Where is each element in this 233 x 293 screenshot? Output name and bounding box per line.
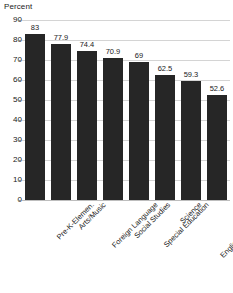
bar-value-label: 69 <box>125 52 153 60</box>
bar <box>25 34 45 200</box>
y-axis-tick-mark <box>18 20 21 21</box>
bar <box>77 51 97 200</box>
y-axis-tick-mark <box>18 60 21 61</box>
bar-value-label: 52.6 <box>203 85 231 93</box>
x-axis-category-labels: Pre-K-Elemen.Arts/MusicForeign LanguageS… <box>22 201 233 293</box>
x-axis-category-label: English/Language Arts <box>219 201 233 260</box>
bar <box>181 81 201 200</box>
y-axis-tick-mark <box>18 80 21 81</box>
bar-value-label: 74.4 <box>73 41 101 49</box>
bar-value-label: 83 <box>21 24 49 32</box>
bar <box>51 44 71 200</box>
plot-area: 8377.974.470.96962.559.352.6 <box>22 20 230 200</box>
y-axis: 0102030405060708090 <box>0 20 22 200</box>
y-axis-tick-mark <box>18 140 21 141</box>
gridline <box>22 20 230 21</box>
bar <box>103 58 123 200</box>
y-axis-tick-mark <box>18 100 21 101</box>
bar <box>207 95 227 200</box>
y-axis-tick-mark <box>18 120 21 121</box>
bar <box>129 62 149 200</box>
bar-value-label: 62.5 <box>151 65 179 73</box>
bar-value-label: 59.3 <box>177 71 205 79</box>
y-axis-tick-mark <box>18 160 21 161</box>
bar-chart: Percent 0102030405060708090 8377.974.470… <box>0 0 233 293</box>
y-axis-title: Percent <box>4 2 32 12</box>
bar <box>155 75 175 200</box>
y-axis-tick-mark <box>18 40 21 41</box>
bar-value-label: 70.9 <box>99 48 127 56</box>
bar-value-label: 77.9 <box>47 34 75 42</box>
y-axis-tick-mark <box>18 200 21 201</box>
y-axis-tick-mark <box>18 180 21 181</box>
